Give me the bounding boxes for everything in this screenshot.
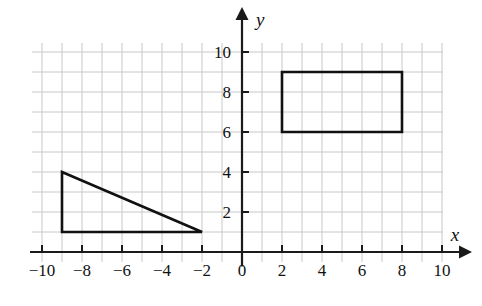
y-tick-label: 10 — [214, 43, 231, 62]
y-tick-label: 4 — [223, 163, 232, 182]
x-tick-label: −4 — [153, 261, 172, 280]
x-tick-label: −10 — [29, 261, 56, 280]
x-tick-label: −6 — [113, 261, 131, 280]
x-tick-label: −8 — [73, 261, 91, 280]
x-tick-label: 6 — [358, 261, 367, 280]
y-tick-label: 6 — [223, 123, 232, 142]
coordinate-plane-figure: −10−8−6−4−20246810246810 xy — [0, 0, 482, 306]
x-axis-name-label: x — [450, 224, 460, 245]
y-axis-name-label: y — [254, 9, 265, 30]
x-tick-label: 2 — [278, 261, 287, 280]
x-tick-label: 4 — [318, 261, 327, 280]
x-tick-label: 0 — [238, 261, 247, 280]
x-tick-label: −2 — [193, 261, 211, 280]
x-tick-label: 8 — [398, 261, 407, 280]
plot-svg: −10−8−6−4−20246810246810 xy — [0, 0, 482, 306]
y-tick-label: 2 — [223, 203, 232, 222]
y-tick-label: 8 — [223, 83, 232, 102]
x-tick-label: 10 — [434, 261, 451, 280]
